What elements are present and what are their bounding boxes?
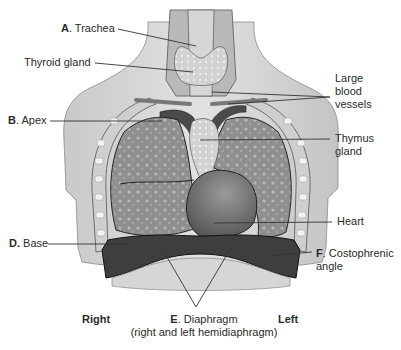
label-thyroid-gland: Thyroid gland xyxy=(24,56,91,69)
heart xyxy=(187,170,257,237)
label-diaphragm: E. Diaphragm (right and left hemidiaphra… xyxy=(124,313,284,339)
label-heart: Heart xyxy=(337,215,364,228)
label-trachea: A. Trachea xyxy=(61,22,115,35)
label-apex: B. Apex xyxy=(8,114,47,127)
thorax-illustration xyxy=(0,0,401,350)
right-lung xyxy=(111,117,196,235)
label-large-blood-vessels: Large blood vessels xyxy=(335,72,372,111)
label-left-side: Left xyxy=(278,313,298,326)
label-right-side: Right xyxy=(82,313,110,326)
label-base: D. Base xyxy=(9,237,48,250)
label-thymus-gland: Thymus gland xyxy=(335,132,374,158)
label-costophrenic-angle: F. Costophrenic angle xyxy=(316,247,394,273)
